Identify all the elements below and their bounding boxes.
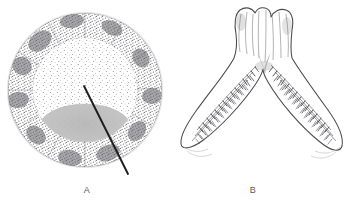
figure-container: A B [0,0,352,204]
panel-a-caption: A [77,185,97,195]
figure-illustration [0,0,352,204]
panel-b-group [181,8,342,158]
panel-b-wing-fringe [183,146,340,158]
panel-a-group [6,12,163,174]
panel-b-caption: B [243,185,263,195]
